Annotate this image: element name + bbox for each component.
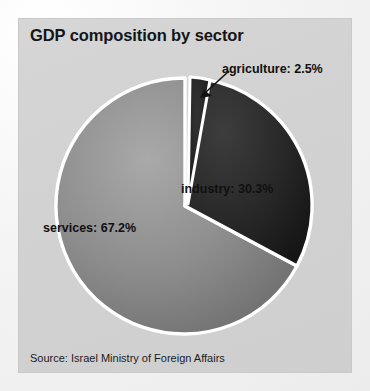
pie-label-services: services: 67.2% — [43, 221, 136, 235]
pie-label-industry: industry: 30.3% — [181, 182, 273, 196]
source-attribution: Source: Israel Ministry of Foreign Affai… — [30, 352, 225, 364]
gdp-chart-card: GDP composition by sector — [18, 18, 352, 373]
pie-chart: agriculture: 2.5% industry: 30.3% servic… — [18, 18, 352, 373]
pie-label-agriculture: agriculture: 2.5% — [222, 62, 323, 76]
